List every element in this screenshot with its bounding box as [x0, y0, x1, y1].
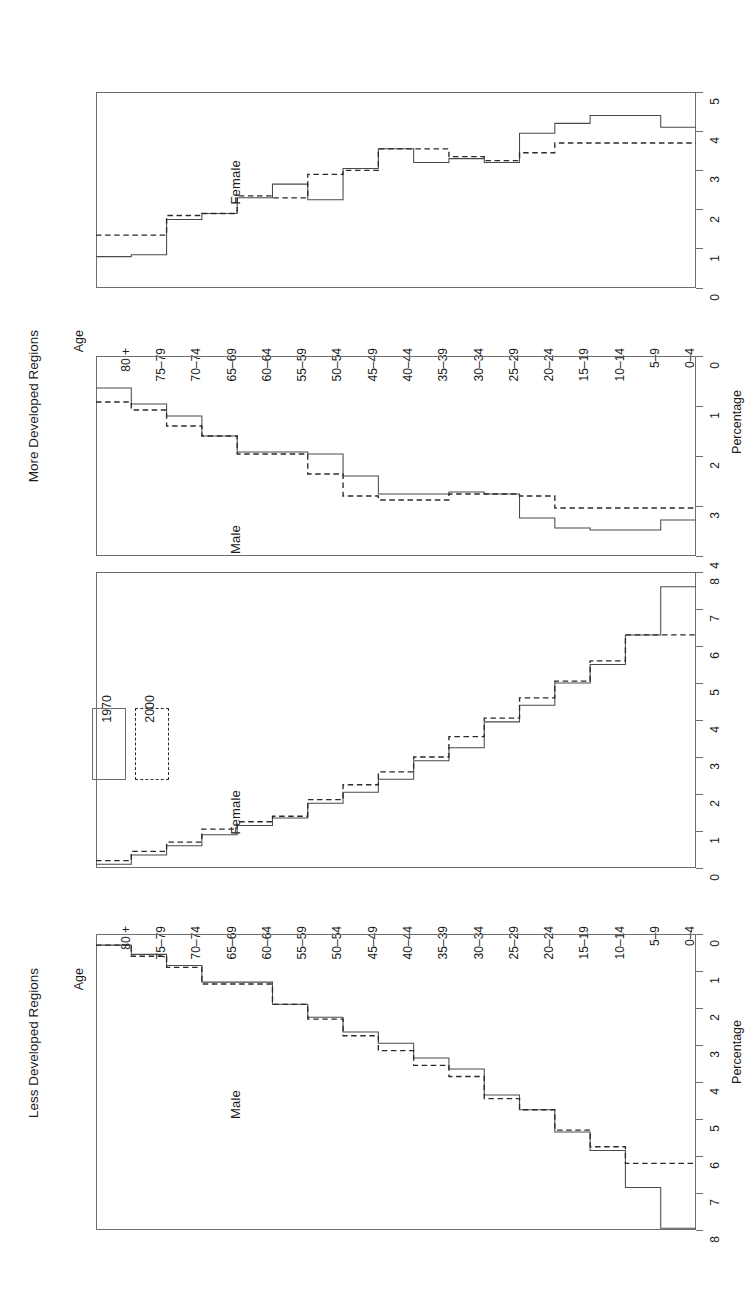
axis-tick: [696, 1230, 703, 1231]
axis-tick-label: 1: [708, 255, 722, 262]
plot-frame: [97, 573, 696, 868]
axis-tick-label: 0: [708, 362, 722, 369]
axis-tick: [696, 556, 703, 557]
series-line-2000: [96, 635, 696, 861]
axis-tick: [696, 1156, 703, 1157]
axis-tick-label: 0: [708, 940, 722, 947]
plot-more-developed-male: [96, 356, 696, 556]
axis-tick: [696, 572, 703, 573]
axis-tick: [696, 248, 703, 249]
series-line-1970: [96, 388, 696, 530]
axis-tick-label: 3: [708, 512, 722, 519]
series-line-1970: [96, 116, 696, 257]
series-line-1970: [96, 945, 696, 1228]
axis-tick: [696, 868, 703, 869]
series-line-1970: [96, 587, 696, 865]
axis-tick-label: 2: [708, 216, 722, 223]
axis-tick: [696, 934, 703, 935]
percentage-axis-label-less-developed: Percentage: [730, 1020, 744, 1084]
plot-frame: [97, 357, 696, 556]
axis-tick-label: 5: [708, 1125, 722, 1132]
series-line-2000: [96, 402, 696, 508]
axis-tick: [696, 1045, 703, 1046]
axis-tick-label: 1: [708, 977, 722, 984]
axis-tick-label: 2: [708, 800, 722, 807]
axis-tick: [696, 757, 703, 758]
group-title-more-developed: More Developed Regions: [26, 330, 41, 482]
axis-tick: [696, 92, 703, 93]
axis-tick-label: 0: [708, 874, 722, 881]
age-axis-label-less-developed: Age: [72, 968, 86, 990]
plot-area: [96, 572, 696, 868]
plot-less-developed-male: [96, 934, 696, 1230]
axis-tick-label: 8: [708, 1236, 722, 1243]
axis-tick-label: 4: [708, 726, 722, 733]
axis-tick: [696, 1119, 703, 1120]
axis-tick-label: 6: [708, 652, 722, 659]
series-line-2000: [96, 143, 696, 235]
axis-tick: [696, 609, 703, 610]
axis-tick: [696, 794, 703, 795]
axis-tick: [696, 683, 703, 684]
axis-tick-label: 8: [708, 578, 722, 585]
axis-tick: [696, 288, 703, 289]
axis-tick-label: 2: [708, 1014, 722, 1021]
axis-tick-label: 1: [708, 837, 722, 844]
axis-tick-label: 3: [708, 1051, 722, 1058]
axis-tick-label: 2: [708, 462, 722, 469]
axis-tick: [696, 406, 703, 407]
age-axis-label-more-developed: Age: [72, 330, 86, 352]
axis-tick: [696, 209, 703, 210]
axis-tick: [696, 1193, 703, 1194]
axis-tick: [696, 831, 703, 832]
axis-tick: [696, 356, 703, 357]
axis-tick: [696, 456, 703, 457]
series-line-2000: [96, 945, 696, 1163]
axis-tick-label: 5: [708, 98, 722, 105]
plot-area: [96, 356, 696, 556]
plot-area: [96, 934, 696, 1230]
axis-tick: [696, 720, 703, 721]
axis-tick-label: 3: [708, 763, 722, 770]
axis-tick-label: 1: [708, 412, 722, 419]
axis-tick-label: 0: [708, 294, 722, 301]
axis-tick: [696, 646, 703, 647]
axis-tick-label: 4: [708, 562, 722, 569]
axis-tick: [696, 1082, 703, 1083]
plot-area: [96, 92, 696, 288]
plot-frame: [97, 935, 696, 1230]
plot-frame: [97, 93, 696, 288]
axis-tick-label: 7: [708, 1199, 722, 1206]
axis-tick: [696, 506, 703, 507]
axis-tick-label: 4: [708, 1088, 722, 1095]
group-title-less-developed: Less Developed Regions: [26, 968, 41, 1118]
plot-less-developed-female: [96, 572, 696, 868]
axis-tick-label: 5: [708, 689, 722, 696]
plot-more-developed-female: [96, 92, 696, 288]
axis-tick-label: 3: [708, 176, 722, 183]
axis-tick-label: 4: [708, 137, 722, 144]
axis-tick-label: 6: [708, 1162, 722, 1169]
percentage-axis-label-more-developed: Percentage: [730, 390, 744, 454]
axis-tick: [696, 131, 703, 132]
axis-tick: [696, 170, 703, 171]
axis-tick: [696, 1008, 703, 1009]
axis-tick: [696, 971, 703, 972]
axis-tick-label: 7: [708, 615, 722, 622]
